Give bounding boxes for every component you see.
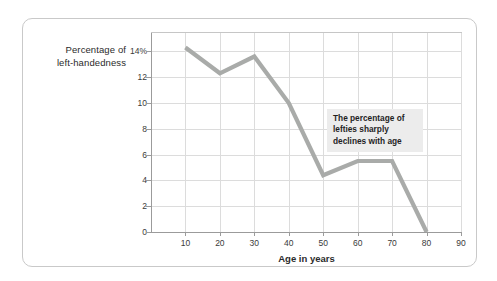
- y-tick-mark: [146, 180, 151, 181]
- annotation-line1: The percentage of: [333, 113, 418, 124]
- x-tick-mark: [185, 232, 186, 236]
- x-tick-mark: [220, 232, 221, 236]
- x-axis-title: Age in years: [151, 253, 462, 264]
- y-tick-mark: [146, 103, 151, 104]
- annotation-line2: lefties sharply: [333, 124, 418, 135]
- x-tick-label: 10: [170, 238, 200, 248]
- annotation-callout: The percentage of lefties sharply declin…: [327, 109, 423, 152]
- x-tick-label: 20: [205, 238, 235, 248]
- x-tick-mark: [289, 232, 290, 236]
- x-tick-label: 90: [446, 238, 476, 248]
- x-tick-mark: [323, 232, 324, 236]
- x-tick-label: 70: [377, 238, 407, 248]
- y-tick-mark: [146, 77, 151, 78]
- chart-screenshot: Percentage of left-handedness 0246810121…: [0, 0, 497, 281]
- x-tick-mark: [427, 232, 428, 236]
- x-tick-mark: [392, 232, 393, 236]
- annotation-line3: declines with age: [333, 136, 418, 147]
- x-tick-label: 60: [343, 238, 373, 248]
- x-tick-label: 30: [239, 238, 269, 248]
- y-tick-mark: [146, 206, 151, 207]
- x-tick-label: 50: [308, 238, 338, 248]
- y-tick-mark: [146, 129, 151, 130]
- x-tick-label: 80: [412, 238, 442, 248]
- y-tick-mark: [146, 232, 151, 233]
- x-tick-mark: [254, 232, 255, 236]
- x-tick-mark: [461, 232, 462, 236]
- x-tick-mark: [358, 232, 359, 236]
- y-tick-mark: [146, 51, 151, 52]
- y-tick-mark: [146, 155, 151, 156]
- x-tick-label: 40: [274, 238, 304, 248]
